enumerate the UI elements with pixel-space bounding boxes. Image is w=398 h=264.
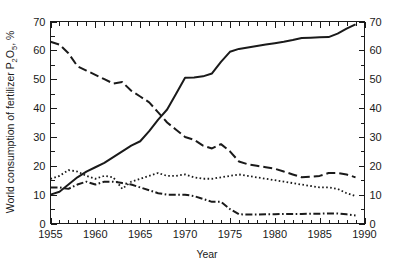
data-series-group: [51, 24, 356, 215]
axis-ticks-group: [51, 22, 366, 225]
x-tick-label-1980: 1980: [263, 228, 287, 240]
series-solid: [51, 24, 356, 194]
y-tick-label-left-40: 40: [33, 102, 45, 114]
series-dotted: [51, 170, 356, 196]
x-tick-label-1985: 1985: [307, 228, 331, 240]
y-tick-label-left-70: 70: [33, 16, 45, 28]
svg-text:World consumption of fertilize: World consumption of fertilizer P2O5, %: [4, 31, 19, 214]
y-tick-label-left-60: 60: [33, 44, 45, 56]
x-tick-label-1960: 1960: [83, 228, 107, 240]
y-axis-title-suffix: , %: [4, 31, 16, 46]
series-dash-dot: [51, 182, 356, 216]
y-axis-title-prefix: World consumption of fertilizer P: [4, 62, 16, 213]
y-tick-label-right-40: 40: [370, 102, 382, 114]
y-axis-title: World consumption of fertilizer P2O5, %: [4, 31, 19, 214]
plot-frame: [51, 22, 365, 224]
x-tick-label-1975: 1975: [218, 228, 242, 240]
y-tick-label-left-0: 0: [39, 218, 45, 230]
line-chart-canvas: 1955196019651970197519801985199001020304…: [0, 0, 398, 264]
series-long-dash: [51, 42, 356, 178]
x-tick-label-1970: 1970: [173, 228, 197, 240]
x-tick-label-1965: 1965: [128, 228, 152, 240]
y-tick-label-right-10: 10: [370, 189, 382, 201]
y-tick-label-left-20: 20: [33, 160, 45, 172]
y-tick-label-left-10: 10: [33, 189, 45, 201]
y-tick-label-right-50: 50: [370, 73, 382, 85]
y-tick-label-right-0: 0: [370, 218, 376, 230]
y-axis-title-mid-o: O: [4, 50, 16, 58]
y-tick-label-left-30: 30: [33, 131, 45, 143]
chart-figure: 1955196019651970197519801985199001020304…: [0, 0, 398, 264]
y-tick-label-left-50: 50: [33, 73, 45, 85]
y-tick-label-right-20: 20: [370, 160, 382, 172]
x-axis-title: Year: [196, 248, 218, 260]
y-tick-label-right-30: 30: [370, 131, 382, 143]
y-tick-label-right-70: 70: [370, 16, 382, 28]
y-tick-label-right-60: 60: [370, 44, 382, 56]
axis-labels-group: 1955196019651970197519801985199001020304…: [33, 16, 382, 240]
